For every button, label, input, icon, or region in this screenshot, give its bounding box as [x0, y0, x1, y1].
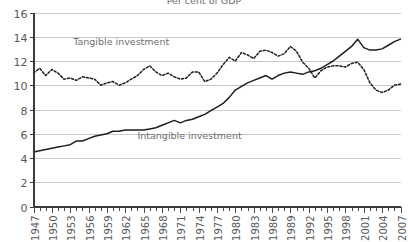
- x-axis-tick-label: 1986: [268, 216, 279, 241]
- y-axis-tick-label: 8: [21, 105, 28, 118]
- y-axis-tick-label: 0: [21, 202, 28, 215]
- x-axis-tick-label: 1965: [140, 216, 151, 241]
- x-axis-tick-labels: 1947195019531956195919621965196819711974…: [30, 216, 408, 241]
- x-axis-tick-label: 2004: [378, 216, 389, 241]
- y-axis-tick-label: 4: [21, 153, 28, 166]
- x-axis-tick-label: 2001: [360, 216, 371, 241]
- x-axis-tick-label: 1980: [231, 216, 242, 241]
- x-axis-tick-label: 1971: [176, 216, 187, 241]
- x-axis-tick-label: 1989: [286, 216, 297, 241]
- line-chart: 0246810121416 19471950195319561959196219…: [0, 0, 408, 242]
- x-axis-tick-label: 1959: [103, 216, 114, 241]
- x-axis-tick-label: 1968: [158, 216, 169, 241]
- y-axis-tick-label: 14: [14, 32, 28, 45]
- series-label: Tangible investment: [72, 36, 169, 47]
- series-label: Intangible investment: [137, 130, 242, 141]
- y-axis-tick-label: 6: [21, 129, 28, 142]
- y-axis-tick-label: 10: [14, 80, 28, 93]
- x-axis-tick-label: 1956: [85, 216, 96, 241]
- x-axis-tick-label: 1995: [323, 216, 334, 241]
- y-axis-tick-label: 2: [21, 177, 28, 190]
- x-axis-tick-label: 2007: [397, 216, 408, 241]
- x-axis-tick-label: 1983: [250, 216, 261, 241]
- x-axis-tick-label: 1947: [30, 216, 41, 241]
- y-axis-tick-label: 16: [14, 8, 28, 21]
- x-axis-tick-label: 1953: [66, 216, 77, 241]
- y-axis-tick-labels: 0246810121416: [14, 8, 28, 215]
- x-axis-tick-label: 1998: [341, 216, 352, 241]
- x-axis-tick-label: 1977: [213, 216, 224, 241]
- y-axis-tick-label: 12: [14, 56, 28, 69]
- series-annotations: Tangible investmentIntangible investment: [72, 36, 242, 140]
- x-axis-tick-label: 1962: [121, 216, 132, 241]
- chart-container: 0246810121416 19471950195319561959196219…: [0, 0, 408, 242]
- x-axis-tick-label: 1950: [48, 216, 59, 241]
- x-axis-tick-label: 1974: [195, 216, 206, 241]
- x-axis-tick-label: 1992: [305, 216, 316, 241]
- chart-title: Per cent of GDP: [167, 0, 242, 6]
